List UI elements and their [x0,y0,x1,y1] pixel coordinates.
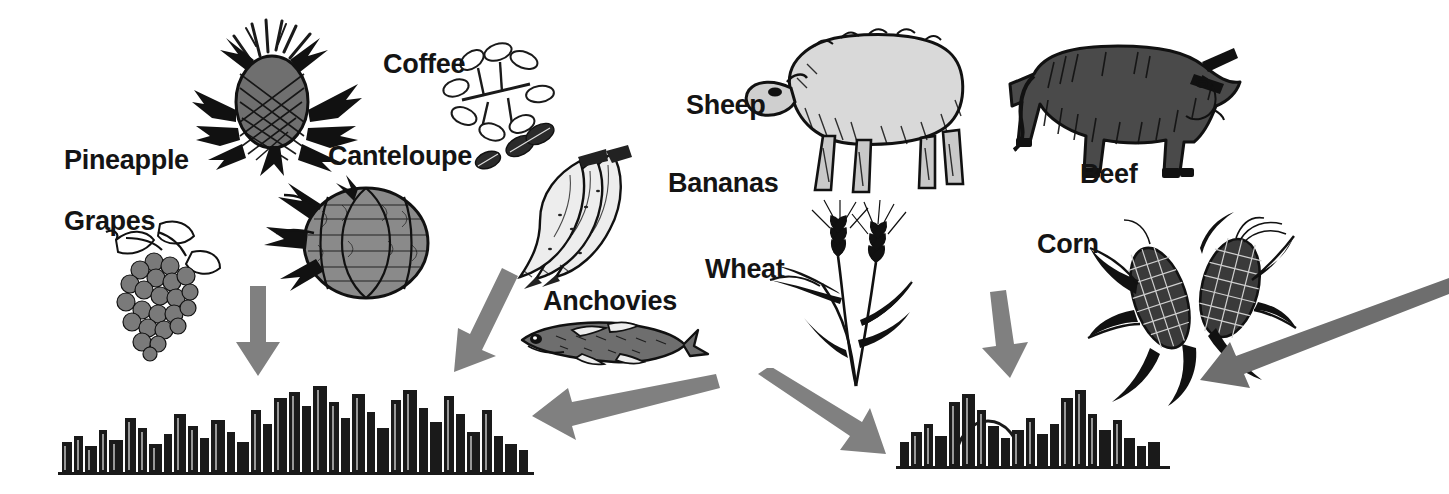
label-coffee: Coffee [383,51,465,78]
arrow-grapes-to-left-city [232,284,288,380]
label-anchovies: Anchovies [543,288,677,315]
arrow-offscreen-to-right-city [1196,276,1449,396]
label-sheep: Sheep [686,92,766,119]
arrow-corn-to-right-city [972,290,1042,382]
label-wheat: Wheat [705,256,785,283]
label-pineapple: Pineapple [64,147,189,174]
label-canteloupe: Canteloupe [328,143,472,170]
canteloupe-illustration [262,175,452,315]
right-city-skyline [896,380,1170,470]
label-beef: Beef [1080,161,1137,188]
arrow-anchovies-to-left-city [524,372,720,442]
grapes-illustration [96,218,226,358]
label-grapes: Grapes [64,208,155,235]
bananas-illustration [520,145,680,290]
wheat-illustration [760,200,920,390]
left-city-skyline [58,384,534,476]
food-supply-diagram: Pineapple Coffee Canteloupe Grapes Banan… [0,0,1449,494]
label-bananas: Bananas [668,170,778,197]
arrow-canteloupe-to-left-city [440,262,530,382]
label-corn: Corn [1037,231,1099,258]
arrow-wheat-to-right-city [752,368,902,464]
anchovies-illustration [512,312,712,372]
